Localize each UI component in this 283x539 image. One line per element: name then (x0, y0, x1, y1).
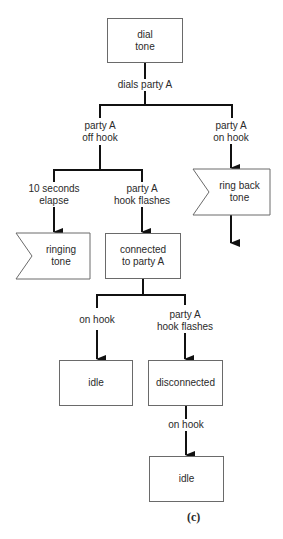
node-dial-tone-label: dial tone (135, 29, 154, 53)
node-ring-back-tone: ring back tone (193, 169, 270, 215)
edge-on-hook-2: on hook (168, 419, 204, 431)
node-disconnected: disconnected (148, 360, 223, 406)
node-idle-1: idle (59, 360, 133, 406)
figure-caption: (c) (187, 510, 200, 525)
node-ring-back-tone-label: ring back tone (203, 180, 260, 204)
node-connected: connected to party A (105, 233, 181, 279)
node-disconnected-label: disconnected (156, 377, 215, 389)
edge-party-a-hook-flashes-1: party A hook flashes (114, 183, 170, 207)
node-idle-1-label: idle (88, 377, 104, 389)
node-connected-label: connected to party A (120, 244, 166, 268)
node-dial-tone: dial tone (107, 18, 183, 63)
edge-party-a-hook-flashes-2: party A hook flashes (157, 309, 213, 333)
node-ringing-tone: ringing tone (16, 233, 90, 279)
edge-party-a-off-hook: party A off hook (82, 120, 117, 144)
edge-on-hook-1: on hook (79, 314, 115, 326)
edge-party-a-on-hook: party A on hook (213, 120, 249, 144)
node-idle-2-label: idle (179, 473, 195, 485)
edge-dials-party-a: dials party A (118, 79, 172, 91)
edge-ten-seconds-elapse: 10 seconds elapse (28, 183, 79, 207)
node-ringing-tone-label: ringing tone (30, 244, 76, 268)
node-idle-2: idle (149, 456, 224, 502)
